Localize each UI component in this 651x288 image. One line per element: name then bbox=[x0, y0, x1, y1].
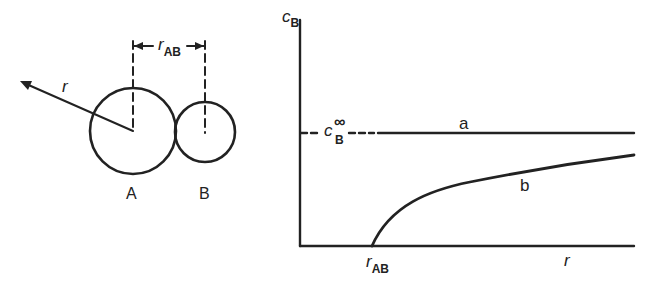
y-axis-label-sub: B bbox=[291, 16, 300, 30]
y-axis-label: cB bbox=[282, 8, 299, 25]
separation-label-main: r bbox=[158, 35, 164, 54]
reference-label-main: c bbox=[324, 122, 333, 139]
reference-label-sub: B bbox=[335, 134, 344, 146]
separation-label-sub: AB bbox=[164, 45, 181, 59]
separation-label: rAB bbox=[158, 36, 181, 53]
x-tick-label-sub: AB bbox=[372, 262, 389, 276]
series-a-label: a bbox=[459, 115, 468, 132]
reference-label: c ∞ B bbox=[324, 118, 348, 148]
series-b-curve bbox=[372, 155, 634, 246]
separation-arrowhead-right bbox=[195, 42, 204, 50]
x-axis-label: r bbox=[564, 252, 570, 269]
particle-b-label: B bbox=[199, 186, 210, 202]
radius-label: r bbox=[62, 78, 68, 95]
separation-arrowhead-left bbox=[134, 42, 143, 50]
series-b-label: b bbox=[520, 177, 529, 194]
reference-label-sup: ∞ bbox=[334, 114, 345, 130]
y-axis-label-main: c bbox=[282, 7, 291, 26]
particle-a-label: A bbox=[126, 186, 137, 202]
x-tick-label: rAB bbox=[366, 253, 389, 270]
x-tick-label-main: r bbox=[366, 252, 372, 271]
